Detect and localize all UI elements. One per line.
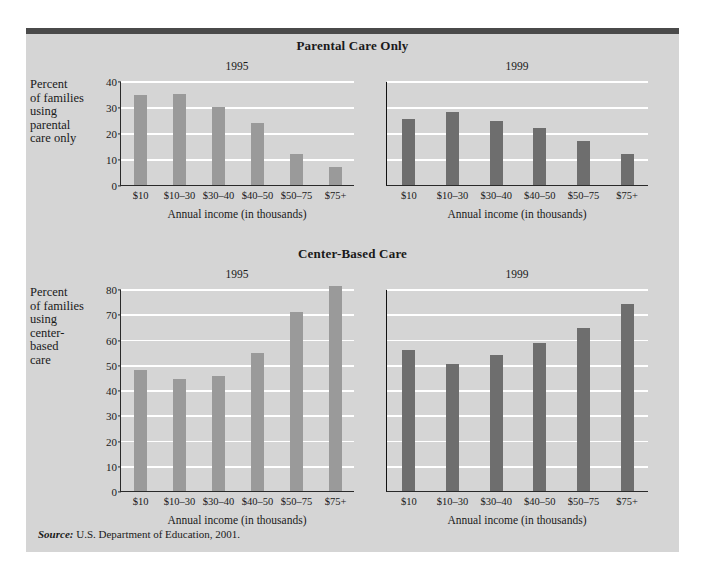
y-axis-tick-label: 10 bbox=[91, 461, 117, 472]
x-axis-category-label: $10–30 bbox=[437, 190, 469, 201]
x-axis-category-label: $10 bbox=[401, 496, 417, 507]
chart-parental-care-only: Parental Care Only 1995 1999 Percentof f… bbox=[26, 38, 679, 243]
source-value: U.S. Department of Education, 2001. bbox=[73, 528, 240, 540]
y-axis-tick-label: 30 bbox=[91, 103, 117, 114]
gridline bbox=[387, 81, 648, 83]
y-axis-tick-label: 10 bbox=[91, 155, 117, 166]
y-axis-tick-mark bbox=[118, 441, 121, 442]
chart-center-based-care: Center-Based Care 1995 1999 Percentof fa… bbox=[26, 246, 679, 516]
x-axis-category-label: $10–30 bbox=[164, 190, 196, 201]
year-label-1999-parental: 1999 bbox=[457, 60, 577, 72]
y-axis-tick-label: 20 bbox=[91, 436, 117, 447]
x-axis-caption-parental-1999: Annual income (in thousands) bbox=[448, 208, 587, 220]
bar bbox=[251, 353, 264, 491]
x-axis-category-label: $50–75 bbox=[281, 496, 313, 507]
x-axis-category-label: $10 bbox=[133, 496, 149, 507]
y-axis-tick-mark bbox=[118, 133, 121, 134]
bar bbox=[134, 370, 147, 491]
gridline bbox=[121, 159, 354, 161]
bar bbox=[251, 123, 264, 185]
y-axis-tick-label: 70 bbox=[91, 310, 117, 321]
figure-panel: Parental Care Only 1995 1999 Percentof f… bbox=[26, 28, 679, 552]
source-label: Source: bbox=[38, 528, 73, 540]
bar bbox=[533, 343, 546, 491]
y-axis-tick-mark bbox=[118, 185, 121, 186]
bar bbox=[402, 119, 415, 185]
plot-area-parental-1999: $10$10–30$30–40$40–50$50–75$75+ bbox=[386, 82, 648, 186]
gridline bbox=[121, 81, 354, 83]
y-axis-tick-label: 30 bbox=[91, 411, 117, 422]
gridline bbox=[121, 441, 354, 443]
y-axis-tick-mark bbox=[118, 390, 121, 391]
plot-area-parental-1995: 010203040$10$10–30$30–40$40–50$50–75$75+ bbox=[120, 82, 354, 186]
x-axis-caption-parental-1995: Annual income (in thousands) bbox=[168, 208, 307, 220]
x-axis-category-label: $30–40 bbox=[203, 190, 235, 201]
y-axis-tick-label: 0 bbox=[91, 181, 117, 192]
x-axis-category-label: $50–75 bbox=[568, 190, 600, 201]
x-axis-category-label: $40–50 bbox=[524, 496, 556, 507]
y-axis-tick-mark bbox=[118, 107, 121, 108]
bar bbox=[621, 304, 634, 491]
x-axis-category-label: $75+ bbox=[616, 190, 638, 201]
y-axis-tick-label: 20 bbox=[91, 129, 117, 140]
chart-title-center: Center-Based Care bbox=[26, 246, 679, 262]
x-axis-category-label: $30–40 bbox=[480, 496, 512, 507]
bar bbox=[329, 286, 342, 491]
y-axis-tick-mark bbox=[118, 289, 121, 290]
x-axis-category-label: $10 bbox=[401, 190, 417, 201]
bar bbox=[134, 95, 147, 185]
y-axis-tick-label: 60 bbox=[91, 335, 117, 346]
gridline bbox=[121, 466, 354, 468]
gridline bbox=[121, 133, 354, 135]
bar bbox=[577, 141, 590, 185]
bar bbox=[212, 107, 225, 185]
gridline bbox=[387, 107, 648, 109]
gridline bbox=[387, 314, 648, 316]
y-axis-tick-mark bbox=[118, 491, 121, 492]
bar bbox=[446, 364, 459, 492]
x-axis-category-label: $50–75 bbox=[281, 190, 313, 201]
year-label-1995-parental: 1995 bbox=[177, 60, 297, 72]
y-axis-tick-label: 50 bbox=[91, 360, 117, 371]
y-axis-tick-mark bbox=[118, 365, 121, 366]
gridline bbox=[121, 340, 354, 342]
gridline bbox=[121, 314, 354, 316]
bar bbox=[446, 112, 459, 185]
top-rule bbox=[26, 28, 679, 34]
y-axis-tick-label: 40 bbox=[91, 77, 117, 88]
gridline bbox=[121, 107, 354, 109]
gridline bbox=[387, 466, 648, 468]
x-axis-category-label: $10–30 bbox=[437, 496, 469, 507]
gridline bbox=[387, 365, 648, 367]
y-axis-tick-label: 80 bbox=[91, 285, 117, 296]
x-axis-caption-center-1999: Annual income (in thousands) bbox=[448, 514, 587, 526]
bar bbox=[490, 121, 503, 185]
gridline bbox=[121, 390, 354, 392]
source-note: Source: U.S. Department of Education, 20… bbox=[38, 528, 240, 540]
gridline bbox=[387, 340, 648, 342]
y-axis-tick-mark bbox=[118, 159, 121, 160]
y-axis-tick-mark bbox=[118, 416, 121, 417]
gridline bbox=[387, 415, 648, 417]
gridline bbox=[387, 289, 648, 291]
gridline bbox=[387, 390, 648, 392]
y-axis-tick-mark bbox=[118, 340, 121, 341]
x-axis-category-label: $50–75 bbox=[568, 496, 600, 507]
bar bbox=[490, 355, 503, 491]
plot-area-center-1995: 01020304050607080$10$10–30$30–40$40–50$5… bbox=[120, 290, 354, 492]
x-axis-caption-center-1995: Annual income (in thousands) bbox=[168, 514, 307, 526]
gridline bbox=[121, 365, 354, 367]
x-axis-category-label: $40–50 bbox=[242, 190, 274, 201]
y-axis-tick-label: 0 bbox=[91, 487, 117, 498]
y-axis-tick-mark bbox=[118, 81, 121, 82]
year-label-1999-center: 1999 bbox=[457, 268, 577, 280]
year-label-1995-center: 1995 bbox=[177, 268, 297, 280]
gridline bbox=[387, 159, 648, 161]
bar bbox=[533, 128, 546, 185]
bar bbox=[577, 328, 590, 491]
y-axis-title-center: Percentof familiesusingcenter-basedcare bbox=[30, 286, 116, 368]
x-axis-category-label: $40–50 bbox=[242, 496, 274, 507]
x-axis-category-label: $10 bbox=[133, 190, 149, 201]
x-axis-category-label: $75+ bbox=[325, 496, 347, 507]
y-axis-tick-mark bbox=[118, 315, 121, 316]
